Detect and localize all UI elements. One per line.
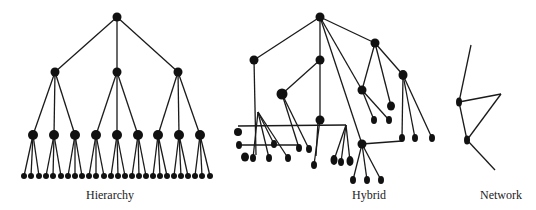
hierarchy-leaf-node (199, 173, 205, 179)
hybrid-edge (346, 125, 350, 161)
hierarchy-leaf-node (72, 173, 78, 179)
hierarchy-node (91, 130, 101, 140)
hierarchy-leaf-node (36, 173, 42, 179)
hierarchy-diagram (21, 13, 213, 180)
hierarchy-leaf-node (207, 173, 213, 179)
hierarchy-edge (68, 135, 75, 176)
hybrid-node (364, 176, 370, 184)
hybrid-node (387, 102, 395, 111)
network-edge (459, 94, 501, 102)
hybrid-edge (258, 112, 269, 158)
hierarchy-leaf-node (171, 173, 177, 179)
hierarchy-edge (117, 17, 178, 72)
hierarchy-leaf-node (129, 173, 135, 179)
hierarchy-label: Hierarchy (86, 188, 134, 203)
hierarchy-leaf-node (58, 173, 64, 179)
hierarchy-node (112, 130, 122, 140)
network-label: Network (480, 188, 522, 203)
hierarchy-leaf-node (185, 173, 191, 179)
hierarchy-edge (55, 17, 117, 72)
hierarchy-leaf-node (136, 173, 142, 179)
hierarchy-leaf-node (178, 173, 184, 179)
hierarchy-edge (178, 72, 179, 135)
hierarchy-edge (54, 72, 55, 135)
hierarchy-node (195, 130, 205, 140)
hierarchy-leaf-node (143, 173, 149, 179)
hybrid-edge (258, 112, 274, 144)
network-edge (459, 102, 467, 140)
hybrid-node (236, 141, 242, 149)
hybrid-edge (258, 112, 288, 158)
hierarchy-edge (195, 135, 200, 176)
network-diagram (456, 45, 501, 170)
hybrid-node (386, 116, 392, 124)
hierarchy-leaf-node (43, 173, 49, 179)
hybrid-edge (282, 60, 320, 94)
hybrid-node (250, 56, 259, 65)
hybrid-node (338, 158, 344, 166)
hierarchy-node (113, 13, 122, 22)
hybrid-node (316, 56, 325, 65)
hybrid-node (234, 128, 242, 136)
hierarchy-edge (96, 135, 104, 176)
hybrid-edge (320, 17, 375, 43)
hierarchy-leaf-node (108, 173, 114, 179)
hierarchy-node (49, 130, 59, 140)
hybrid-node (358, 140, 367, 149)
hierarchy-edge (153, 135, 158, 176)
hybrid-edge (353, 144, 362, 180)
hybrid-node (296, 144, 302, 152)
hierarchy-node (113, 68, 122, 77)
hybrid-node (285, 154, 291, 162)
hybrid-node (316, 116, 325, 125)
network-edge (467, 140, 495, 170)
hierarchy-leaf-node (28, 173, 34, 179)
hybrid-node (429, 134, 435, 142)
diagram-canvas (0, 0, 536, 210)
hybrid-diagram (234, 13, 435, 185)
hierarchy-node (153, 130, 163, 140)
hybrid-node (371, 116, 377, 124)
hierarchy-edge (158, 72, 178, 135)
hybrid-node (250, 154, 256, 162)
hierarchy-node (70, 130, 80, 140)
hierarchy-edge (89, 135, 96, 176)
hybrid-edge (282, 94, 299, 148)
hybrid-edge (362, 90, 389, 120)
hierarchy-edge (174, 135, 179, 176)
hierarchy-leaf-node (122, 173, 128, 179)
network-edge (467, 94, 501, 140)
hierarchy-leaf-node (164, 173, 170, 179)
hierarchy-node (51, 68, 60, 77)
hybrid-node (350, 176, 356, 184)
hybrid-edge (362, 90, 374, 120)
hybrid-node (306, 145, 312, 153)
hierarchy-edge (96, 72, 117, 135)
hierarchy-leaf-node (192, 173, 198, 179)
hybrid-edge (362, 141, 402, 144)
hierarchy-node (28, 130, 38, 140)
hybrid-edge (402, 75, 403, 138)
hybrid-node (399, 134, 405, 142)
hybrid-node (266, 154, 272, 162)
hybrid-edge (254, 17, 320, 60)
hierarchy-edge (178, 72, 200, 135)
hierarchy-edge (54, 135, 61, 176)
hybrid-label: Hybrid (352, 188, 386, 203)
hierarchy-leaf-node (93, 173, 99, 179)
hierarchy-leaf-node (79, 173, 85, 179)
hierarchy-leaf-node (50, 173, 56, 179)
hierarchy-leaf-node (157, 173, 163, 179)
hybrid-node (412, 134, 418, 142)
hierarchy-edge (111, 135, 117, 176)
hybrid-edge (362, 43, 375, 90)
hierarchy-leaf-node (150, 173, 156, 179)
hybrid-node (371, 39, 380, 48)
hierarchy-edge (117, 72, 138, 135)
hybrid-node (316, 13, 325, 22)
hierarchy-leaf-node (115, 173, 121, 179)
hierarchy-leaf-node (65, 173, 71, 179)
hybrid-edge (238, 125, 346, 126)
network-node (456, 98, 462, 107)
hybrid-edge (403, 75, 415, 138)
